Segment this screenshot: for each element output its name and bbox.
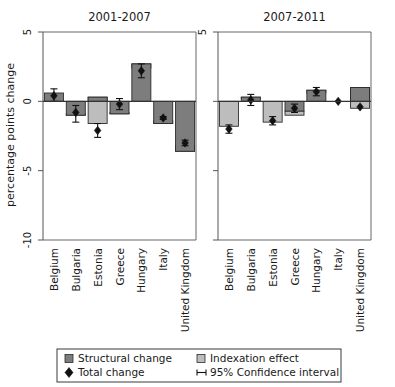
x-axis-category-label: Estonia <box>92 248 104 287</box>
x-axis-category-label: Hungary <box>135 248 147 293</box>
legend-label: Total change <box>77 366 145 378</box>
y-axis-tick-label: -10 <box>22 232 33 248</box>
x-axis-category-label: Bulgaria <box>245 248 257 292</box>
bar-structural-change <box>88 97 107 101</box>
legend-label: Structural change <box>78 352 172 364</box>
x-axis-category-label: Belgium <box>223 248 235 291</box>
panel-y-tick-label: 5 <box>197 29 208 35</box>
panel-2007-2011: 52007-2011BelgiumBulgariaEstoniaGreeceHu… <box>197 10 371 332</box>
legend-label: Indexation effect <box>210 352 299 364</box>
legend-swatch-indexation-effect <box>197 355 205 363</box>
bar-structural-change <box>351 87 370 101</box>
x-axis-category-label: Italy <box>157 248 169 271</box>
x-axis-category-label: Greece <box>114 248 126 285</box>
grouped-bar-chart-svg: percentage points change 50-5-10 2001-20… <box>0 0 395 387</box>
legend-swatch-structural-change <box>65 355 73 363</box>
bar-indexation-effect <box>219 101 238 126</box>
x-axis-category-label: United Kingdom <box>179 248 191 332</box>
x-axis-category-label: Greece <box>289 248 301 285</box>
y-axis: 50-5-10 <box>22 29 43 248</box>
panel-title: 2001-2007 <box>88 10 151 24</box>
chart-figure: percentage points change 50-5-10 2001-20… <box>0 0 395 387</box>
legend-label: 95% Confidence interval <box>210 366 339 378</box>
x-axis-category-label: Italy <box>332 248 344 271</box>
x-axis-category-label: Estonia <box>267 248 279 287</box>
x-axis-category-label: Bulgaria <box>70 248 82 292</box>
total-change-diamond <box>94 126 101 134</box>
y-axis-title: percentage points change <box>4 63 17 207</box>
y-axis-tick-label: 5 <box>22 29 33 35</box>
y-axis-tick-label: 0 <box>22 98 33 104</box>
x-axis-category-label: United Kingdom <box>354 248 366 332</box>
panel-2001-2007: 2001-2007BelgiumBulgariaEstoniaGreeceHun… <box>43 10 196 332</box>
x-axis-category-label: Belgium <box>48 248 60 291</box>
chart-legend: Structural changeIndexation effectTotal … <box>57 349 341 382</box>
y-axis-tick-label: -5 <box>22 166 33 176</box>
panel-title: 2007-2011 <box>263 10 326 24</box>
x-axis-category-label: Hungary <box>310 248 322 293</box>
